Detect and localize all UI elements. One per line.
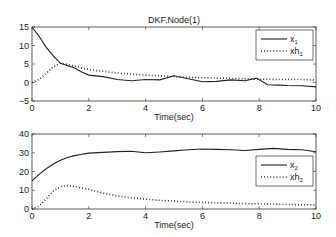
y-tick-label: 5 xyxy=(24,59,29,69)
x-tick-label: 0 xyxy=(29,211,34,221)
y-tick-label: 0 xyxy=(24,204,29,214)
x-axis-label: Time(sec) xyxy=(154,220,194,230)
x-tick-label: 4 xyxy=(143,211,148,221)
x-tick-label: 6 xyxy=(200,103,205,113)
x-tick-label: 10 xyxy=(311,211,321,221)
x-tick-label: 2 xyxy=(86,211,91,221)
y-tick-label: 30 xyxy=(19,148,29,158)
y-tick-label: 10 xyxy=(19,185,29,195)
x-tick-label: 10 xyxy=(311,103,321,113)
x-axis-label: Time(sec) xyxy=(154,112,194,122)
y-tick-label: 15 xyxy=(19,22,29,32)
x-tick-label: 8 xyxy=(257,211,262,221)
y-tick-label: −5 xyxy=(19,96,29,106)
x-tick-label: 2 xyxy=(86,103,91,113)
x-tick-label: 8 xyxy=(257,103,262,113)
y-tick-label: 10 xyxy=(19,41,29,51)
legend-box xyxy=(256,30,313,60)
y-tick-label: 40 xyxy=(19,129,29,139)
y-tick-label: 20 xyxy=(19,167,29,177)
legend-box xyxy=(256,156,313,186)
x-tick-label: 0 xyxy=(29,103,34,113)
top-plot: 0246810−5051015DKF,Node(1)Time(sec)x1xh1 xyxy=(19,15,321,122)
x-tick-label: 6 xyxy=(200,211,205,221)
y-tick-label: 0 xyxy=(24,78,29,88)
figure: 0246810−5051015DKF,Node(1)Time(sec)x1xh1… xyxy=(0,0,336,237)
bottom-plot: 0246810010203040Time(sec)x2xh2 xyxy=(19,129,321,230)
x-tick-label: 4 xyxy=(143,103,148,113)
chart-title: DKF,Node(1) xyxy=(148,15,200,25)
